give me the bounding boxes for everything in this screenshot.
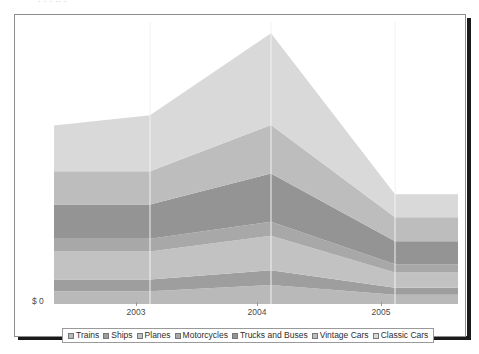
legend-swatch-icon <box>103 333 109 339</box>
x-tick-label-2004: 2004 <box>248 308 267 317</box>
legend-swatch-icon <box>68 333 74 339</box>
frame-shadow-right <box>467 18 471 340</box>
legend-swatch-icon <box>175 333 181 339</box>
legend-label: Motorcycles <box>183 331 228 340</box>
legend-label: Planes <box>145 331 171 340</box>
legend-swatch-icon <box>312 333 318 339</box>
legend-label: Trains <box>76 331 99 340</box>
clipped-top-text-label: . . . .. . <box>0 0 479 4</box>
x-tick-label-2005: 2005 <box>372 308 391 317</box>
x-tick-mark <box>257 302 258 306</box>
legend-label: Ships <box>111 331 132 340</box>
legend-item-motorcycles[interactable]: Motorcycles <box>175 331 228 340</box>
legend-item-classic-cars[interactable]: Classic Cars <box>373 331 429 340</box>
legend-swatch-icon <box>232 333 238 339</box>
legend-swatch-icon <box>373 333 379 339</box>
x-tick-mark <box>381 302 382 306</box>
chart-legend[interactable]: TrainsShipsPlanesMotorcyclesTrucks and B… <box>62 328 434 343</box>
legend-item-trucks-and-buses[interactable]: Trucks and Buses <box>232 331 308 340</box>
legend-label: Classic Cars <box>381 331 429 340</box>
x-tick-mark <box>136 302 137 306</box>
legend-item-vintage-cars[interactable]: Vintage Cars <box>312 331 369 340</box>
legend-item-trains[interactable]: Trains <box>68 331 99 340</box>
legend-swatch-icon <box>137 333 143 339</box>
clipped-top-text: . . . .. . <box>0 0 479 11</box>
legend-label: Trucks and Buses <box>240 331 308 340</box>
legend-item-ships[interactable]: Ships <box>103 331 132 340</box>
chart-frame: $ 0 200320042005 TrainsShipsPlanesMotorc… <box>14 14 466 337</box>
x-tick-label-2003: 2003 <box>127 308 146 317</box>
legend-item-planes[interactable]: Planes <box>137 331 171 340</box>
y-axis-zero-label: $ 0 <box>32 297 44 306</box>
legend-label: Vintage Cars <box>320 331 369 340</box>
stacked-area-plot[interactable] <box>54 22 458 304</box>
stacked-area-svg <box>54 22 458 304</box>
